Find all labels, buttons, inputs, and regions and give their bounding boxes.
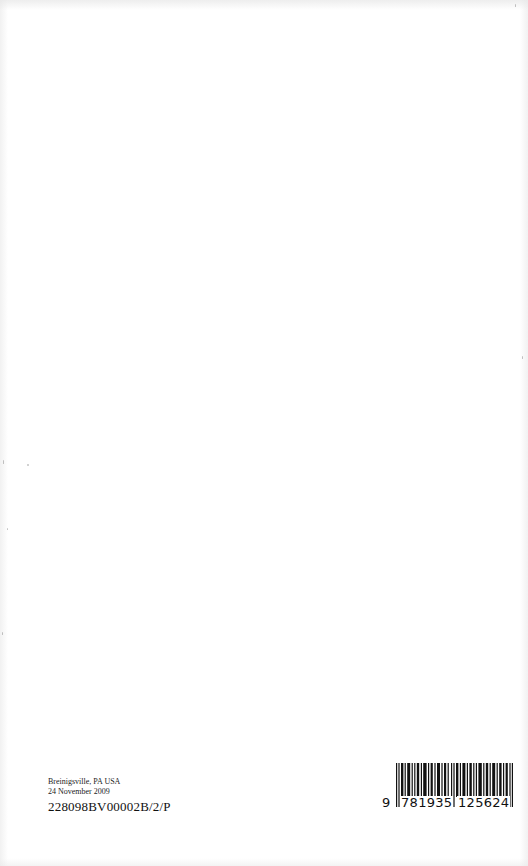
scan-speck	[2, 632, 3, 635]
print-code: 228098BV00002B/2/P	[48, 799, 171, 815]
scan-speck	[27, 464, 29, 466]
isbn-left-group: 781935	[400, 796, 453, 810]
scan-speck	[522, 356, 523, 359]
scan-speck	[515, 4, 516, 7]
printer-colophon: Breinigsville, PA USA 24 November 2009 2…	[48, 777, 171, 815]
scan-speck	[7, 528, 8, 530]
isbn-right-group: 125624	[457, 796, 510, 810]
print-date: 24 November 2009	[48, 787, 171, 797]
isbn-barcode: 9 781935 125624	[378, 762, 518, 812]
scan-speck	[3, 460, 4, 464]
isbn-digits: 9 781935 125624	[378, 796, 518, 810]
print-location: Breinigsville, PA USA	[48, 777, 171, 787]
isbn-first-digit: 9	[381, 796, 391, 810]
book-back-page: Breinigsville, PA USA 24 November 2009 2…	[0, 0, 528, 866]
